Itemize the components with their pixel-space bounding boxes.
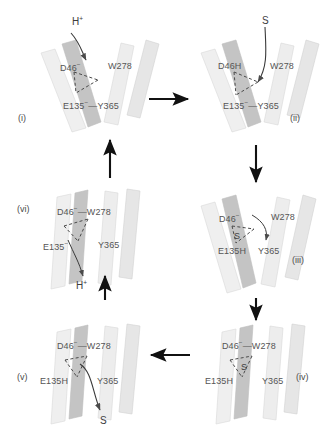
panel-iii-label-w278: W278: [271, 213, 295, 222]
panel-vi-roman: (vi): [17, 204, 30, 214]
panel-v-label-d46-w278: D46−—W278: [57, 340, 111, 351]
panel-ii-substrate-arrow: [258, 27, 266, 82]
panel-vi-species-proton: H+: [76, 279, 87, 291]
panel-v-helices: [51, 324, 140, 424]
panel-i-helices: [41, 40, 159, 132]
panel-v-roman: (v): [17, 372, 28, 382]
panel-ii-label-d46h: D46H: [218, 62, 241, 71]
panel-iv-label-e135h: E135H: [205, 377, 233, 386]
panel-iv-species-substrate: S: [241, 362, 247, 372]
panel-iii-species-substrate: S: [234, 231, 240, 241]
panel-vi-helices: [51, 189, 140, 289]
panel-ii-label-e135-y365: E135−—Y365: [223, 100, 279, 111]
panel-v-label-e135h: E135H: [40, 377, 68, 386]
panel-ii-roman: (ii): [290, 113, 300, 123]
panel-v-species-substrate: S: [100, 415, 107, 426]
panel-i-roman: (i): [18, 113, 26, 123]
panel-ii-helices: [201, 40, 319, 132]
panel-iii-transfer-arrow: [252, 215, 266, 240]
panel-ii-label-w278: W278: [270, 62, 294, 71]
panel-iii-roman: (iii): [292, 255, 304, 265]
panel-i-species-proton: H+: [72, 15, 83, 27]
panel-vi-label-y365: Y365: [98, 241, 119, 250]
panel-iv-label-y365: Y365: [262, 377, 283, 386]
panel-v-label-y365: Y365: [97, 377, 118, 386]
figure-canvas: (i) H+ D46− W278 E135−—Y365 (ii) S D46H …: [0, 0, 327, 439]
panel-iv-roman: (iv): [296, 372, 309, 382]
panel-vi-label-e135: E135−: [43, 241, 68, 252]
panel-iii-label-d46: D46−: [219, 213, 240, 224]
panel-iii-label-y365: Y365: [258, 247, 279, 256]
panel-i-label-e135-y365: E135−—Y365: [63, 100, 119, 111]
panel-i-label-d46: D46−: [60, 62, 81, 73]
panel-iii-helices: [201, 195, 316, 293]
panel-iv-label-d46-w278: D46−—W278: [222, 340, 276, 351]
panel-iii-label-e135h: E135H: [218, 247, 246, 256]
panel-iv-helices: [216, 324, 305, 424]
panel-ii-species-substrate: S: [262, 14, 269, 26]
panel-i-label-w278: W278: [108, 62, 132, 71]
panel-vi-label-d46-w278: D46−—W278: [57, 206, 111, 217]
